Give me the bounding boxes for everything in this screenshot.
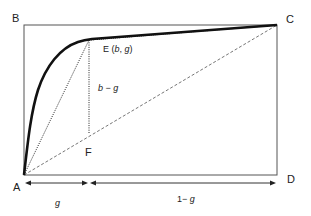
- lorenz-diagram: B C A D F E (b, g) b − g g 1− g: [0, 0, 311, 216]
- label-b: B: [12, 12, 19, 24]
- diagonal-ac-dashed: [24, 25, 277, 175]
- label-b-minus-g: b − g: [98, 83, 118, 93]
- label-a: A: [13, 181, 21, 193]
- label-g: g: [55, 198, 60, 208]
- label-d: D: [287, 173, 295, 185]
- label-f: F: [85, 146, 92, 158]
- label-c: C: [286, 13, 294, 25]
- label-omg-prefix: 1−: [177, 194, 190, 204]
- label-omg-g: g: [190, 194, 195, 204]
- arrow-one-minus-g: [90, 181, 276, 186]
- label-bmg-minus: −: [103, 83, 113, 93]
- arrow-g: [25, 181, 88, 186]
- label-bmg-g: g: [113, 83, 118, 93]
- label-one-minus-g: 1− g: [177, 194, 195, 204]
- label-e-prefix: E (: [103, 44, 115, 54]
- label-e: E (b, g): [103, 44, 133, 54]
- label-e-close: ): [130, 44, 133, 54]
